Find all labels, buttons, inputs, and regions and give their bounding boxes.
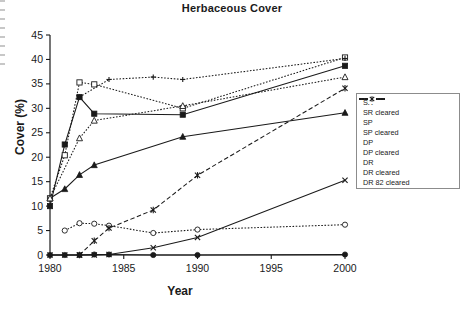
legend-item-sp: SP (361, 117, 455, 127)
legend-label-sp: SP (363, 118, 373, 127)
series-sp-cleared (47, 74, 348, 201)
y-tick-label: 40 (31, 53, 43, 65)
data-point-filled-square (92, 111, 97, 116)
data-point-open-circle (77, 221, 82, 226)
x-tick-label: 2000 (333, 262, 357, 274)
x-tick-label: 1980 (38, 262, 62, 274)
data-point-filled-square (342, 63, 347, 68)
data-point-plus (151, 74, 156, 79)
data-point-open-triangle (91, 117, 97, 123)
data-point-star-x (342, 85, 347, 91)
y-tick-label: 35 (31, 77, 43, 89)
data-point-open-square (77, 80, 82, 85)
legend-key-dr-82-cleared (357, 94, 387, 104)
data-point-filled-square (47, 204, 52, 209)
data-point-star-x (151, 207, 156, 213)
y-tick-label: 20 (31, 151, 43, 163)
series-dp-cleared (62, 221, 347, 236)
x-tick-label: 1985 (112, 262, 136, 274)
legend-item-dp: DP (361, 137, 455, 147)
data-point-plus (180, 77, 185, 82)
data-point-open-square (62, 153, 67, 158)
legend-label-dp: DP (363, 138, 373, 147)
y-tick-label: 30 (31, 102, 43, 114)
legend-label-sr-cleared: SR cleared (363, 108, 399, 117)
y-tick-label: 5 (37, 224, 43, 236)
legend-item-dr-82-cleared: DR 82 cleared (361, 177, 455, 187)
series-dr (47, 178, 347, 258)
legend-label-dr: DR (363, 158, 374, 167)
x-tick-label: 1990 (186, 262, 210, 274)
legend-item-dp-cleared: DP cleared (361, 147, 455, 157)
y-tick-label: 0 (37, 249, 43, 261)
data-point-filled-triangle (342, 110, 348, 116)
data-point-filled-circle (151, 252, 156, 257)
data-point-open-square (92, 82, 97, 87)
y-tick-label: 10 (31, 200, 43, 212)
x-tick-label: 1995 (260, 262, 284, 274)
legend-item-dr-cleared: DR cleared (361, 167, 455, 177)
data-point-x-cross (342, 178, 347, 183)
data-point-open-circle (62, 228, 67, 233)
y-tick-label: 45 (31, 29, 43, 41)
chart-legend: SR SR cleared SP SP cleared DP DP cleare… (356, 93, 460, 189)
y-tick-label: 25 (31, 126, 43, 138)
legend-item-sp-cleared: SP cleared (361, 127, 455, 137)
series-sr-cleared (47, 55, 347, 201)
legend-label-dr-82-cleared: DR 82 cleared (363, 178, 410, 187)
data-point-filled-square (180, 112, 185, 117)
data-point-filled-circle (195, 252, 200, 257)
data-point-open-triangle (342, 74, 348, 80)
chart-container: Herbaceous Cover Cover (%) Year 05101520… (0, 0, 464, 310)
data-point-filled-circle (342, 252, 347, 257)
data-point-open-circle (92, 221, 97, 226)
y-tick-label: 15 (31, 175, 43, 187)
legend-label-sp-cleared: SP cleared (363, 128, 399, 137)
data-point-open-circle (195, 227, 200, 232)
data-point-star-x (195, 172, 200, 178)
legend-label-dr-cleared: DR cleared (363, 168, 400, 177)
data-point-open-circle (342, 222, 347, 227)
legend-label-dp-cleared: DP cleared (363, 148, 399, 157)
data-point-star-x (92, 238, 97, 244)
legend-item-sr-cleared: SR cleared (361, 107, 455, 117)
data-point-plus (106, 77, 111, 82)
data-point-filled-triangle (77, 172, 83, 178)
data-point-open-triangle (77, 135, 83, 141)
data-point-open-circle (151, 230, 156, 235)
legend-item-dr: DR (361, 157, 455, 167)
